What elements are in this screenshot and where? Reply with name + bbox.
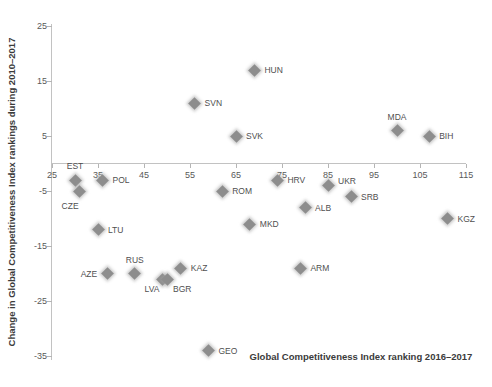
data-point-label: HUN [264,66,282,75]
data-point-marker [345,190,358,203]
y-axis-tick-label: 5 [17,131,47,141]
x-axis-tick [374,164,375,168]
data-point-label: ROM [232,187,252,196]
x-axis-tick [466,164,467,168]
data-point-label: HRV [287,176,305,185]
data-point-marker [101,267,114,280]
data-point-marker [188,97,201,110]
data-point-label: POL [113,176,130,185]
y-axis-tick [47,136,52,137]
data-point-label: LVA [145,285,160,294]
y-axis-tick-label: -5 [17,186,47,196]
x-axis-tick-label: 105 [412,170,427,180]
x-axis-tick-label: 115 [459,170,473,180]
data-point-marker [128,267,141,280]
data-point-label: KAZ [191,264,208,273]
data-point-marker [299,201,312,214]
y-axis-tick-label: -35 [17,351,47,361]
data-point-marker [322,179,335,192]
x-axis-tick [144,164,145,168]
y-axis-tick [47,26,52,27]
data-point-marker [230,130,243,143]
x-axis-tick [52,164,53,168]
data-point-marker [174,262,187,275]
x-axis-tick-label: 25 [47,170,57,180]
x-axis-line [52,163,466,164]
data-point-label: KGZ [458,214,475,223]
x-axis-title: Global Competitiveness Index ranking 201… [250,351,473,362]
x-axis-tick-label: 45 [139,170,149,180]
data-point-label: CZE [62,202,79,211]
y-axis-tick-label: 15 [17,76,47,86]
data-point-marker [202,344,215,357]
data-point-marker [391,124,404,137]
data-point-label: ARM [310,264,329,273]
data-point-marker [216,185,229,198]
data-point-label: LTU [108,225,123,234]
x-axis-tick [328,164,329,168]
data-point-label: SVN [205,99,222,108]
data-point-label: RUS [126,255,144,264]
y-axis-tick [47,356,52,357]
data-point-label: MKD [260,220,279,229]
data-point-label: SVK [246,132,263,141]
data-point-label: AZE [81,269,98,278]
data-point-label: GEO [218,346,237,355]
y-axis-tick-label: -15 [17,241,47,251]
x-axis-tick-label: 55 [185,170,195,180]
x-axis-tick-label: 65 [231,170,241,180]
data-point-marker [248,64,261,77]
y-axis-tick [47,191,52,192]
data-point-label: ALB [315,203,331,212]
y-axis-tick [47,246,52,247]
x-axis-tick [236,164,237,168]
data-point-label: MDA [388,112,407,121]
x-axis-tick [282,164,283,168]
y-axis-tick-label: 25 [17,21,47,31]
y-axis-tick-label: -25 [17,296,47,306]
data-point-label: BGR [173,285,191,294]
data-point-label: EST [67,162,84,171]
data-point-label: BIH [439,132,453,141]
data-point-label: UKR [338,176,356,185]
data-point-marker [423,130,436,143]
x-axis-tick-label: 95 [369,170,379,180]
x-axis-tick [420,164,421,168]
data-point-marker [441,212,454,225]
scatter-chart: Change in Global Competitiveness Index r… [0,0,492,387]
data-point-label: SRB [361,192,378,201]
data-point-marker [243,218,256,231]
y-axis-tick [47,81,52,82]
data-point-marker [92,223,105,236]
x-axis-tick [190,164,191,168]
plot-area: 253545556575859510511525155-5-15-25-35ES… [0,0,492,387]
y-axis-line [51,24,52,360]
x-axis-tick [98,164,99,168]
data-point-marker [294,262,307,275]
y-axis-tick [47,301,52,302]
